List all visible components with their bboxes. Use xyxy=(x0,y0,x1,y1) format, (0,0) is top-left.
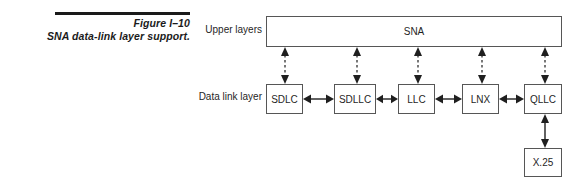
connector-lnx-qllc-double-arrow-icon xyxy=(499,92,524,106)
connector-sna-llc-dashed-double-arrow-icon xyxy=(412,47,424,84)
box-qllc: QLLC xyxy=(524,84,562,114)
connector-sdlc-sdllc-double-arrow-icon xyxy=(303,92,334,106)
connector-sdllc-llc-double-arrow-icon xyxy=(376,92,398,106)
connector-llc-lnx-double-arrow-icon xyxy=(435,92,462,106)
box-sdllc: SDLLC xyxy=(334,84,376,114)
row-label-data-link-layer: Data link layer xyxy=(152,91,262,102)
caption-rule xyxy=(55,12,190,15)
connector-qllc-x25-double-arrow-icon xyxy=(539,114,551,148)
box-x25: X.25 xyxy=(524,148,562,177)
figure-page: Figure I–10 SNA data-link layer support.… xyxy=(0,0,588,184)
connector-sna-sdlc-dashed-double-arrow-icon xyxy=(279,47,291,84)
box-lnx: LNX xyxy=(462,84,499,114)
connector-sna-sdllc-dashed-double-arrow-icon xyxy=(351,47,363,84)
box-sdlc: SDLC xyxy=(266,84,303,114)
box-sna: SNA xyxy=(266,16,562,47)
connector-sna-lnx-dashed-double-arrow-icon xyxy=(476,47,488,84)
connector-sna-qllc-dashed-double-arrow-icon xyxy=(539,47,551,84)
box-llc: LLC xyxy=(398,84,435,114)
row-label-upper-layers: Upper layers xyxy=(162,24,262,35)
